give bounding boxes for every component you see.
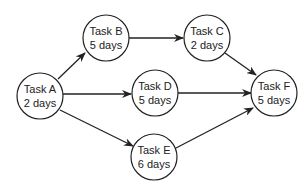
- edge-c-f: [225, 53, 256, 75]
- node-e-label: Task E 6 days: [131, 143, 177, 171]
- node-b-name: Task B: [83, 24, 129, 38]
- node-a-name: Task A: [17, 82, 63, 96]
- node-c-duration: 2 days: [184, 38, 230, 52]
- node-c-name: Task C: [184, 24, 230, 38]
- node-e-name: Task E: [131, 143, 177, 157]
- node-d-name: Task D: [132, 79, 178, 93]
- node-e-duration: 6 days: [131, 157, 177, 171]
- node-d-duration: 5 days: [132, 93, 178, 107]
- node-f-name: Task F: [251, 79, 297, 93]
- edge-e-f: [176, 108, 253, 148]
- node-f-label: Task F 5 days: [251, 79, 297, 107]
- node-d-label: Task D 5 days: [132, 79, 178, 107]
- node-a-label: Task A 2 days: [17, 82, 63, 110]
- node-c-label: Task C 2 days: [184, 24, 230, 52]
- edge-a-b: [58, 53, 85, 79]
- node-f-duration: 5 days: [251, 93, 297, 107]
- edge-a-e: [60, 110, 133, 146]
- node-b-label: Task B 5 days: [83, 24, 129, 52]
- node-b-duration: 5 days: [83, 38, 129, 52]
- node-a-duration: 2 days: [17, 96, 63, 110]
